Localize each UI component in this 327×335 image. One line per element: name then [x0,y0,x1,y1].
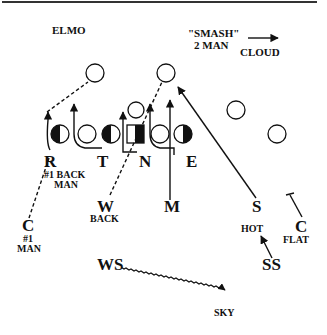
defender-ss: SS [262,255,281,274]
ws-route [121,267,225,290]
r-dashed-route [47,82,88,112]
receiver-circle [157,64,175,82]
line-player-5 [151,125,169,143]
s-route [178,87,256,198]
play-diagram: ELMO "SMASH" 2 MAN CLOUD [0,0,327,335]
receiver-circle [268,125,286,143]
c-right-route [290,195,302,217]
line-player-3 [102,125,120,143]
coverage-label: CLOUD [240,46,280,58]
defender-ws-note: SKY [214,307,235,318]
defender-ss-note: HOT [241,223,264,234]
defender-c-right-note: FLAT [283,234,309,245]
c-right-route-cap [286,193,294,195]
receiver-circle [227,101,245,119]
defender-c-left-note2: MAN [17,243,42,254]
line-player-1 [51,125,69,143]
line-player-2 [78,125,96,143]
defender-t: T [97,152,109,171]
r-arrow-route [47,112,50,150]
defender-n: N [139,152,152,171]
defender-e: E [186,152,197,171]
call-line2: 2 MAN [194,39,229,51]
defender-r-note2: MAN [54,179,79,190]
receiver-circle [86,64,104,82]
formation-title: ELMO [52,24,86,36]
defender-ws: WS [97,255,123,274]
call-line1: "SMASH" [188,27,239,39]
receiver-circle [128,102,144,118]
defender-w-note: BACK [90,213,119,224]
defender-m: M [164,197,180,216]
line-player-6 [174,125,192,143]
defender-s: S [252,197,261,216]
